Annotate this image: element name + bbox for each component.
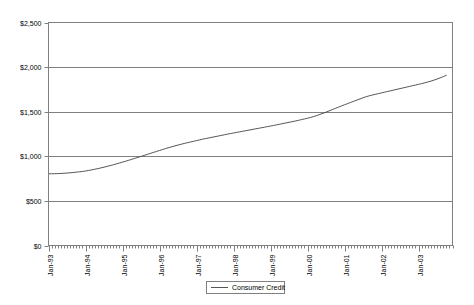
x-axis-tick-labels: Jan-93Jan-94Jan-95Jan-96Jan-97Jan-98Jan-… xyxy=(47,254,424,276)
x-tick-label: Jan-97 xyxy=(195,254,202,276)
plot-area-background xyxy=(49,23,453,246)
x-tick-label: Jan-01 xyxy=(343,254,350,276)
x-tick-label: Jan-94 xyxy=(84,254,91,276)
x-tick-label: Jan-03 xyxy=(417,254,424,276)
y-tick-label: $0 xyxy=(34,243,42,250)
chart-canvas: $2,500$2,000$1,500$1,000$500$0 Jan-93Jan… xyxy=(0,0,474,305)
chart-legend: Consumer Credit xyxy=(207,282,285,294)
y-axis-tick-marks xyxy=(45,24,49,247)
y-tick-label: $1,500 xyxy=(20,109,42,116)
y-axis-tick-labels: $2,500$2,000$1,500$1,000$500$0 xyxy=(20,20,42,250)
x-tick-label: Jan-02 xyxy=(380,254,387,276)
x-tick-label: Jan-95 xyxy=(121,254,128,276)
x-tick-label: Jan-96 xyxy=(158,254,165,276)
legend-label-consumer-credit: Consumer Credit xyxy=(232,284,285,291)
y-tick-label: $2,000 xyxy=(20,64,42,71)
x-tick-label: Jan-98 xyxy=(232,254,239,276)
y-tick-label: $500 xyxy=(26,198,42,205)
x-tick-label: Jan-99 xyxy=(269,254,276,276)
x-tick-label: Jan-00 xyxy=(306,254,313,276)
y-tick-label: $1,000 xyxy=(20,153,42,160)
x-tick-label: Jan-93 xyxy=(47,254,54,276)
consumer-credit-chart: $2,500$2,000$1,500$1,000$500$0 Jan-93Jan… xyxy=(0,0,474,305)
y-tick-label: $2,500 xyxy=(20,20,42,27)
